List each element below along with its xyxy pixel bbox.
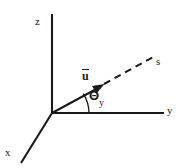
coordinate-diagram-svg — [0, 0, 187, 168]
figure-container: z y x s u Θ y — [0, 0, 187, 168]
y-axis-label: y — [167, 105, 173, 116]
unit-vector-label-text: u — [82, 69, 89, 83]
ray-s-dashed-line — [104, 56, 155, 84]
z-axis-label: z — [35, 16, 40, 27]
ray-s-label: s — [156, 56, 160, 67]
angle-subscript-label: y — [99, 98, 104, 108]
unit-vector-label: u — [82, 69, 89, 83]
x-axis-line — [21, 113, 52, 163]
x-axis-label: x — [5, 147, 11, 158]
angle-theta-label: Θ — [89, 89, 99, 102]
